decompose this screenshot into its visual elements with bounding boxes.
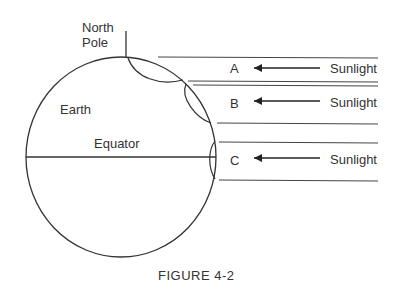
beam-b-bottom — [217, 123, 378, 124]
beam-a-label: A — [230, 61, 239, 76]
arrow-c-icon — [254, 154, 320, 162]
arrow-b-icon — [254, 97, 320, 105]
beam-b-top — [193, 85, 378, 86]
beam-a-footprint — [128, 58, 183, 82]
beam-c-bottom — [219, 180, 378, 181]
sunlight-a-label: Sunlight — [330, 61, 377, 76]
beam-b-label: B — [230, 96, 239, 111]
north-pole-label-line2: Pole — [82, 35, 114, 50]
beam-a-bottom — [188, 81, 378, 82]
beam-c-top — [219, 142, 378, 143]
figure-caption: FIGURE 4-2 — [158, 268, 235, 283]
earth-sunlight-diagram — [0, 0, 396, 299]
north-pole-label-line1: North — [82, 20, 114, 35]
sunlight-c-label: Sunlight — [330, 152, 377, 167]
equator-label: Equator — [94, 136, 140, 151]
earth-label: Earth — [60, 102, 91, 117]
beam-c-label: C — [230, 153, 239, 168]
beam-b-footprint — [185, 84, 211, 123]
north-pole-label: North Pole — [82, 20, 114, 50]
arrow-a-icon — [254, 64, 320, 72]
beam-a-top — [158, 57, 378, 58]
sunlight-b-label: Sunlight — [330, 95, 377, 110]
